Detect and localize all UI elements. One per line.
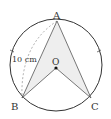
label-b: B [11, 101, 18, 112]
measure-label: 10 cm [12, 55, 37, 64]
geometry-diagram: A B C O 10 cm [0, 0, 111, 119]
label-a: A [52, 10, 61, 21]
label-o: O [52, 57, 59, 67]
label-c: C [91, 101, 99, 112]
